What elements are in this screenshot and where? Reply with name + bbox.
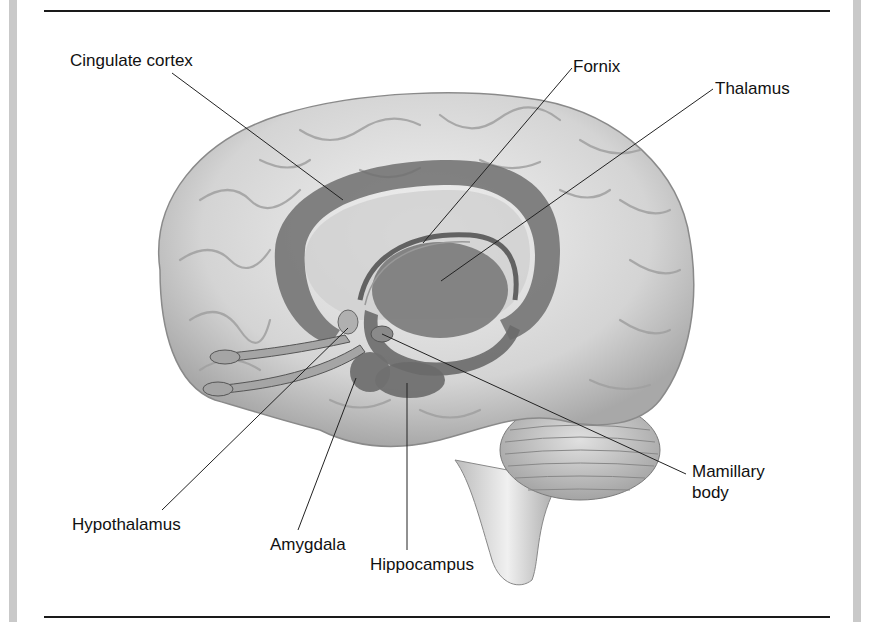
label-thalamus: Thalamus [715, 78, 790, 99]
label-mamillary-body: Mamillary body [692, 461, 765, 503]
thalamus-region [372, 242, 508, 338]
label-cingulate-cortex: Cingulate cortex [70, 50, 193, 71]
label-hippocampus: Hippocampus [370, 554, 474, 575]
label-hypothalamus: Hypothalamus [72, 514, 181, 535]
label-fornix: Fornix [573, 56, 620, 77]
limbic-system-figure: Cingulate cortex Fornix Thalamus Mamilla… [0, 0, 871, 622]
hypothalamus-region [338, 310, 358, 334]
label-amygdala: Amygdala [270, 534, 346, 555]
label-mamillary-line1: Mamillary [692, 461, 765, 482]
label-mamillary-line2: body [692, 482, 765, 503]
